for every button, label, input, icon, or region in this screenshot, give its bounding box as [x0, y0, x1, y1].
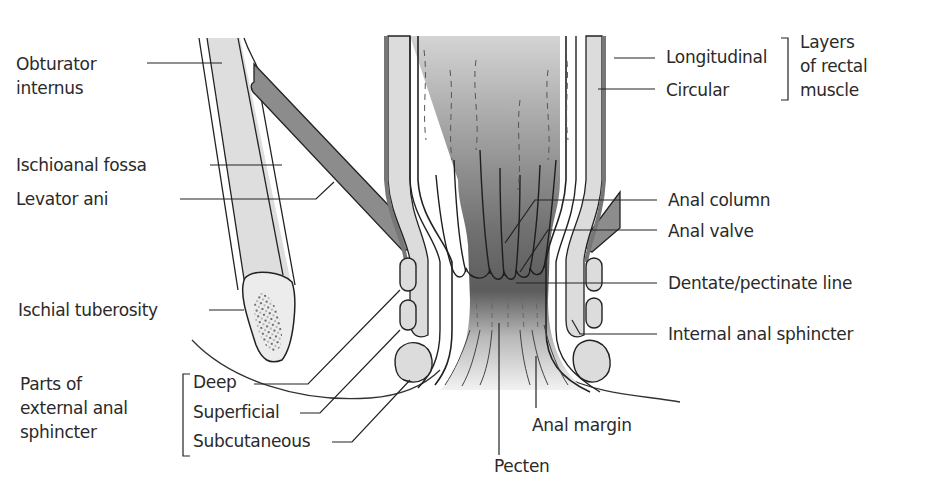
label-dentate-line: Dentate/pectinate line: [668, 273, 852, 293]
label-rectal-muscle-group: Layers of rectal muscle: [800, 30, 867, 102]
label-pecten: Pecten: [494, 456, 550, 476]
label-anal-column: Anal column: [668, 190, 770, 210]
label-circular: Circular: [666, 80, 729, 100]
label-external-sphincter-group: Parts of external anal sphincter: [20, 372, 128, 444]
label-ischial-tuberosity: Ischial tuberosity: [18, 300, 158, 320]
label-subcutaneous: Subcutaneous: [193, 431, 310, 451]
label-ischioanal-fossa: Ischioanal fossa: [16, 155, 147, 175]
anal-canal-diagram: [0, 0, 931, 501]
label-anal-valve: Anal valve: [668, 221, 754, 241]
label-deep: Deep: [193, 372, 237, 392]
label-superficial: Superficial: [193, 402, 279, 422]
label-internal-anal-sphincter: Internal anal sphincter: [668, 324, 853, 344]
label-levator-ani: Levator ani: [16, 189, 108, 209]
label-longitudinal: Longitudinal: [666, 47, 767, 67]
label-obturator-internus: Obturator internus: [16, 52, 96, 100]
label-anal-margin: Anal margin: [532, 415, 632, 435]
anal-canal-lumen: [410, 36, 585, 390]
